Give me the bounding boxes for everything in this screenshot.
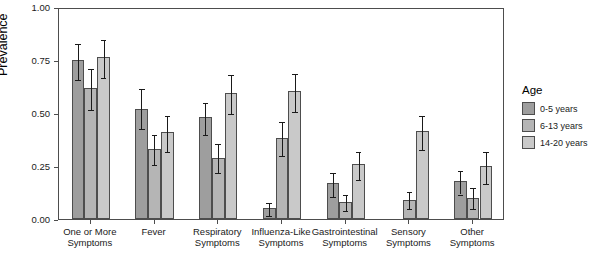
- x-tick-mark: [472, 220, 473, 224]
- error-bar-cap: [88, 110, 94, 111]
- legend-label: 14-20 years: [540, 138, 588, 148]
- error-bar-cap: [458, 171, 464, 172]
- bar-group: [263, 9, 301, 219]
- bar-group: [454, 9, 492, 219]
- error-bar: [460, 171, 461, 194]
- bar-group: [72, 9, 110, 219]
- legend-swatch: [522, 136, 535, 149]
- legend-swatch: [522, 102, 535, 115]
- x-tick-mark: [217, 220, 218, 224]
- error-bar: [104, 40, 105, 78]
- error-bar: [231, 75, 232, 114]
- error-bar: [409, 192, 410, 209]
- error-bar-cap: [266, 203, 272, 204]
- error-bar-cap: [330, 173, 336, 174]
- error-bar-cap: [75, 44, 81, 45]
- legend-label: 0-5 years: [540, 104, 578, 114]
- error-bar: [346, 195, 347, 212]
- error-bar-cap: [458, 195, 464, 196]
- error-bar-cap: [139, 89, 145, 90]
- y-tick-mark: [54, 220, 58, 221]
- error-bar-cap: [470, 209, 476, 210]
- error-bar: [333, 173, 334, 196]
- error-bar: [269, 203, 270, 216]
- error-bar: [473, 188, 474, 209]
- legend-title: Age: [522, 84, 594, 96]
- x-tick-label: Other Symptoms: [434, 226, 510, 248]
- error-bar-cap: [343, 211, 349, 212]
- error-bar: [422, 116, 423, 150]
- x-tick-mark: [408, 220, 409, 224]
- error-bar-cap: [228, 114, 234, 115]
- error-bar-cap: [356, 152, 362, 153]
- error-bar-cap: [152, 135, 158, 136]
- error-bar-cap: [203, 103, 209, 104]
- error-bar-cap: [228, 75, 234, 76]
- error-bar-cap: [292, 112, 298, 113]
- error-bar: [141, 89, 142, 129]
- bar: [97, 57, 110, 219]
- error-bar-cap: [165, 152, 171, 153]
- legend-item: 14-20 years: [522, 136, 594, 149]
- y-tick-mark: [54, 114, 58, 115]
- error-bar: [218, 144, 219, 174]
- bars-layer: [59, 9, 503, 219]
- error-bar-cap: [101, 78, 107, 79]
- chart-figure: Prevalence Age 0-5 years6-13 years14-20 …: [0, 0, 595, 267]
- error-bar-cap: [88, 69, 94, 70]
- error-bar-cap: [266, 216, 272, 217]
- y-axis-label: Prevalence: [0, 13, 10, 76]
- error-bar-cap: [279, 122, 285, 123]
- error-bar-cap: [343, 195, 349, 196]
- error-bar-cap: [483, 184, 489, 185]
- error-bar: [359, 152, 360, 180]
- error-bar-cap: [279, 156, 285, 157]
- bar: [72, 60, 85, 219]
- y-tick-label: 0.75: [20, 56, 50, 66]
- error-bar-cap: [470, 188, 476, 189]
- y-tick-mark: [54, 61, 58, 62]
- error-bar-cap: [407, 192, 413, 193]
- legend-swatch: [522, 119, 535, 132]
- error-bar: [282, 122, 283, 156]
- legend: Age 0-5 years6-13 years14-20 years: [522, 84, 594, 153]
- x-tick-mark: [90, 220, 91, 224]
- error-bar-cap: [139, 129, 145, 130]
- error-bar-cap: [356, 180, 362, 181]
- error-bar-cap: [483, 152, 489, 153]
- error-bar-cap: [152, 165, 158, 166]
- error-bar: [167, 116, 168, 152]
- error-bar-cap: [203, 135, 209, 136]
- y-tick-label: 1.00: [20, 3, 50, 13]
- bar-group: [135, 9, 173, 219]
- legend-item: 6-13 years: [522, 119, 594, 132]
- legend-label: 6-13 years: [540, 121, 583, 131]
- y-tick-mark: [54, 167, 58, 168]
- y-tick-label: 0.00: [20, 215, 50, 225]
- x-tick-mark: [345, 220, 346, 224]
- error-bar: [78, 44, 79, 80]
- error-bar-cap: [292, 74, 298, 75]
- plot-panel: [58, 8, 504, 220]
- error-bar-cap: [75, 80, 81, 81]
- error-bar: [295, 74, 296, 112]
- y-tick-label: 0.25: [20, 162, 50, 172]
- error-bar-cap: [330, 197, 336, 198]
- error-bar: [486, 152, 487, 184]
- legend-items: 0-5 years6-13 years14-20 years: [522, 102, 594, 149]
- y-tick-label: 0.50: [20, 109, 50, 119]
- error-bar-cap: [165, 116, 171, 117]
- y-tick-mark: [54, 8, 58, 9]
- error-bar: [205, 103, 206, 135]
- error-bar-cap: [215, 144, 221, 145]
- bar-group: [327, 9, 365, 219]
- error-bar: [91, 69, 92, 109]
- error-bar-cap: [419, 116, 425, 117]
- bar-group: [199, 9, 237, 219]
- error-bar-cap: [101, 40, 107, 41]
- error-bar-cap: [407, 209, 413, 210]
- error-bar: [154, 135, 155, 165]
- error-bar-cap: [419, 150, 425, 151]
- bar-group: [390, 9, 428, 219]
- error-bar-cap: [215, 173, 221, 174]
